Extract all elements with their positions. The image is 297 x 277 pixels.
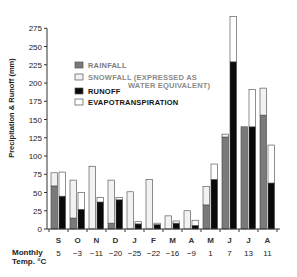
bar-segment: [173, 221, 180, 223]
legend-label: RAINFALL: [88, 61, 127, 70]
legend-label-cont: WATER EQUIVALENT): [128, 81, 211, 90]
monthly-temp-value: −9: [187, 249, 197, 258]
bar-segment: [249, 90, 256, 127]
bar-segment: [192, 220, 199, 225]
x-category-label: F: [151, 236, 156, 245]
monthly-temp-value: 13: [244, 249, 253, 258]
bar-segment: [51, 173, 58, 186]
y-tick-label: 175: [29, 97, 43, 106]
legend-swatch: [75, 74, 83, 80]
bar-segment: [59, 196, 66, 229]
bar-segment: [211, 179, 218, 229]
bar-segment: [135, 224, 142, 229]
x-category-label: J: [246, 236, 250, 245]
x-category-label: N: [94, 236, 100, 245]
legend-swatch: [75, 88, 83, 94]
x-category-label: D: [113, 236, 119, 245]
bar-segment: [78, 209, 85, 229]
bar-segment: [184, 211, 191, 229]
monthly-temp-value: −20: [109, 249, 123, 258]
x-category-label: M: [169, 236, 176, 245]
bar-segment: [222, 134, 229, 137]
x-axis: S5O−3N−11D−20J−25F−22M−16A−9M1J7J13A11: [47, 229, 280, 258]
bar-segment: [268, 145, 275, 183]
monthly-temp-value: −16: [166, 249, 180, 258]
x-category-label: A: [265, 236, 271, 245]
y-axis-label: Precipitation & Runoff (mm): [7, 58, 16, 158]
temp-label-line1: Monthly: [12, 248, 43, 257]
monthly-temp-value: −22: [147, 249, 161, 258]
bar-segment: [70, 218, 77, 229]
bar-segment: [230, 17, 237, 62]
bar-segment: [97, 198, 104, 202]
bar-segment: [135, 222, 142, 224]
legend: RAINFALLSNOWFALL (EXPRESSED ASWATER EQUI…: [75, 61, 211, 107]
x-category-label: M: [207, 236, 214, 245]
monthly-temp-value: −3: [73, 249, 83, 258]
y-tick-label: 200: [29, 79, 43, 88]
monthly-temp-value: 11: [263, 249, 272, 258]
monthly-temp-value: 5: [56, 249, 61, 258]
bar-segment: [146, 179, 153, 229]
monthly-temp-value: 7: [227, 249, 232, 258]
bar-segment: [97, 202, 104, 229]
bar-segment: [203, 205, 210, 229]
bar-segment: [116, 200, 123, 229]
legend-label: RUNOFF: [88, 87, 121, 96]
bar-segment: [241, 127, 248, 229]
bar-segment: [165, 216, 172, 229]
y-tick-label: 0: [38, 225, 43, 234]
y-tick-label: 100: [29, 152, 43, 161]
y-tick-label: 225: [29, 61, 43, 70]
bar-segment: [260, 88, 267, 115]
bar-segment: [154, 225, 161, 229]
y-tick-label: 75: [33, 170, 42, 179]
bar-segment: [260, 115, 267, 229]
bar-segment: [108, 180, 115, 223]
bar-segment: [51, 186, 58, 229]
y-tick-label: 25: [33, 207, 42, 216]
monthly-temp-value: 1: [208, 249, 213, 258]
bar-segment: [154, 223, 161, 224]
x-category-label: O: [74, 236, 80, 245]
x-category-label: J: [227, 236, 231, 245]
chart: 0255075100125150175200225250275 S5O−3N−1…: [0, 0, 297, 277]
bar-segment: [70, 180, 77, 218]
bar-segment: [211, 164, 218, 179]
x-category-label: S: [56, 236, 62, 245]
bar-segment: [108, 223, 115, 229]
temp-label-line2: Temp. °C: [12, 257, 46, 266]
bar-segment: [127, 192, 134, 229]
bar-segment: [230, 62, 237, 229]
legend-swatch: [75, 62, 83, 68]
y-tick-label: 125: [29, 134, 43, 143]
bar-segment: [203, 187, 210, 205]
legend-swatch: [75, 99, 83, 105]
bar-segment: [249, 127, 256, 229]
bar-segment: [116, 198, 123, 200]
bar-segment: [192, 225, 199, 229]
y-tick-label: 250: [29, 43, 43, 52]
y-axis: 0255075100125150175200225250275: [29, 24, 47, 234]
bar-segment: [78, 193, 85, 210]
y-tick-label: 50: [33, 189, 42, 198]
bar-segment: [222, 137, 229, 229]
x-category-label: J: [132, 236, 136, 245]
bars: [51, 17, 275, 229]
bar-segment: [268, 183, 275, 229]
bar-segment: [173, 223, 180, 229]
bar-segment: [59, 172, 66, 196]
legend-label: EVAPOTRANSPIRATION: [88, 98, 178, 107]
bar-segment: [89, 166, 96, 229]
y-tick-label: 275: [29, 24, 43, 33]
x-category-label: A: [189, 236, 195, 245]
y-tick-label: 150: [29, 116, 43, 125]
monthly-temp-value: −11: [90, 249, 104, 258]
monthly-temp-value: −25: [128, 249, 142, 258]
